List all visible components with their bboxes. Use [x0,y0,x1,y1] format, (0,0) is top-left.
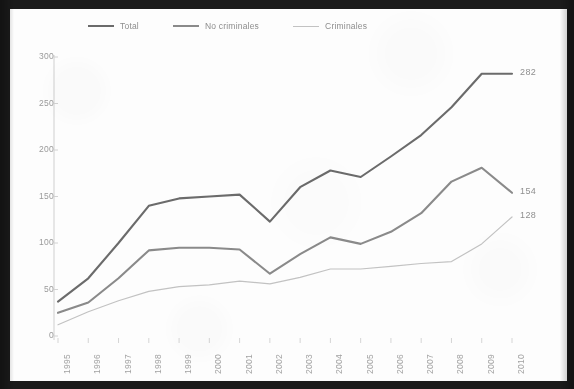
legend-item-no-criminales: No criminales [173,21,259,31]
x-tick-label: 2007 [425,354,435,374]
scanned-page-border: Total No criminales Criminales 300250200… [0,0,574,389]
x-tick-label: 2008 [455,354,465,374]
legend-label-criminales: Criminales [325,21,367,31]
legend-item-total: Total [88,21,139,31]
x-tick-label: 1996 [92,354,102,374]
legend-line-icon-no-criminales [173,25,199,27]
x-tick-label: 2005 [365,354,375,374]
value-callout-total: 282 [520,67,536,77]
chart-legend: Total No criminales Criminales [88,21,367,31]
legend-item-criminales: Criminales [293,21,367,31]
legend-line-icon-total [88,25,114,27]
x-tick-label: 1998 [153,354,163,374]
x-tick-label: 2003 [304,354,314,374]
x-tick-label: 2001 [244,354,254,374]
legend-label-no-criminales: No criminales [205,21,259,31]
x-tick-label: 2000 [213,354,223,374]
x-tick-label: 1995 [62,354,72,374]
legend-label-total: Total [120,21,139,31]
x-tick-label: 1997 [123,354,133,374]
value-callout-no-criminales: 154 [520,186,536,196]
plot-area: 300250200150100500 199519961997199819992… [10,9,567,381]
x-tick-label: 2002 [274,354,284,374]
x-axis-tick-labels: 1995199619971998199920002001200220032004… [10,9,567,381]
legend-line-icon-criminales [293,26,319,27]
value-callout-criminales: 128 [520,210,536,220]
x-tick-label: 1999 [183,354,193,374]
x-tick-label: 2009 [486,354,496,374]
chart-figure: Total No criminales Criminales 300250200… [10,9,567,381]
x-tick-label: 2010 [516,354,526,374]
x-tick-label: 2004 [334,354,344,374]
x-tick-label: 2006 [395,354,405,374]
